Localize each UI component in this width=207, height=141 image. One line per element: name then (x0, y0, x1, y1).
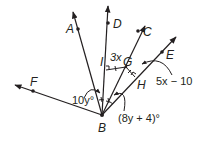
expr-5x-10: 5x − 10 (156, 75, 192, 87)
tick-gi (115, 66, 116, 71)
label-a: A (65, 22, 74, 36)
point-d (106, 21, 110, 25)
expr-10y: 10y° (72, 94, 94, 106)
diagram-canvas: A D C E F I G H B 3x 5x − 10 10y° (8y + … (0, 0, 207, 141)
label-h: H (137, 78, 146, 92)
label-b: B (98, 121, 106, 135)
point-c (136, 29, 140, 33)
angle-tick-1 (101, 97, 102, 102)
label-d: D (113, 17, 122, 31)
label-c: C (143, 25, 152, 39)
label-e: E (166, 48, 175, 62)
right-angle-mark-i (106, 66, 109, 69)
label-g: G (123, 55, 132, 69)
geometry-diagram: A D C E F I G H B 3x 5x − 10 10y° (8y + … (0, 0, 207, 141)
label-i: I (100, 55, 104, 69)
label-f: F (30, 75, 38, 89)
point-f (31, 89, 35, 93)
point-a (76, 27, 80, 31)
expr-8y-4: (8y + 4)° (118, 112, 160, 124)
point-e (160, 50, 164, 54)
expr-3x: 3x (110, 51, 122, 63)
point-b (100, 113, 104, 117)
right-angle-mark-h (131, 72, 136, 75)
